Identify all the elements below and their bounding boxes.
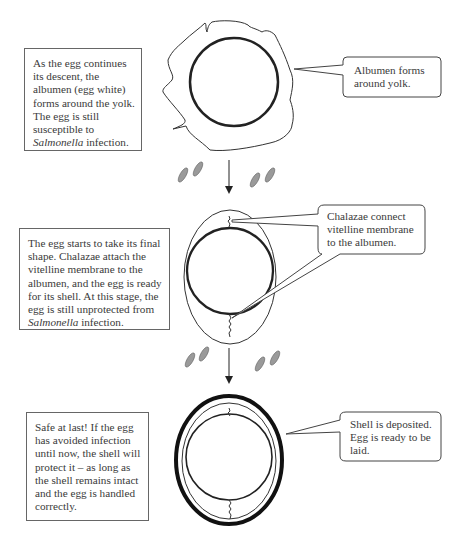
salmonella-bacteria-icon <box>191 161 204 178</box>
down-arrow-icon <box>225 348 233 384</box>
salmonella-bacteria-icon-group <box>176 161 276 189</box>
salmonella-italic: Salmonella <box>33 136 83 148</box>
description-box-shell: Safe at last! If the egg has avoided inf… <box>26 412 149 521</box>
salmonella-bacteria-icon <box>268 350 281 367</box>
salmonella-bacteria-icon <box>253 356 266 373</box>
stage-albumen-egg <box>163 21 293 151</box>
stage-chalazae-egg <box>184 210 276 344</box>
salmonella-italic: Salmonella <box>28 316 78 328</box>
salmonella-bacteria-icon <box>263 167 276 184</box>
chalaza-bottom <box>229 314 231 337</box>
chalaza-top <box>228 216 230 227</box>
salmonella-bacteria-icon-group <box>183 346 281 373</box>
salmonella-bacteria-icon <box>176 167 189 184</box>
yolk <box>186 414 272 500</box>
down-arrow-icon <box>225 160 233 194</box>
salmonella-bacteria-icon <box>248 172 261 189</box>
salmonella-bacteria-icon <box>197 346 210 363</box>
description-text-end: infection. <box>78 316 123 328</box>
description-box-albumen: As the egg continues its descent, the al… <box>24 48 142 151</box>
salmonella-bacteria-icon <box>183 352 196 369</box>
stage-shell-egg <box>176 396 282 524</box>
description-text: Safe at last! If the egg has avoided inf… <box>35 421 140 512</box>
description-text: The egg starts to take its final shape. … <box>28 237 162 315</box>
description-text-end: infection. <box>83 136 128 148</box>
description-text: As the egg continues its descent, the al… <box>33 57 135 135</box>
chalaza-bottom <box>229 500 231 519</box>
yolk <box>190 38 278 126</box>
callout-text-shell: Shell is deposited. Egg is ready to be l… <box>350 418 436 458</box>
callout-text-albumen: Albumen forms around yolk. <box>354 64 434 90</box>
description-box-chalazae: The egg starts to take its final shape. … <box>19 228 170 330</box>
callout-text-chalazae: Chalazae connect vitelline membrane to t… <box>327 210 419 250</box>
